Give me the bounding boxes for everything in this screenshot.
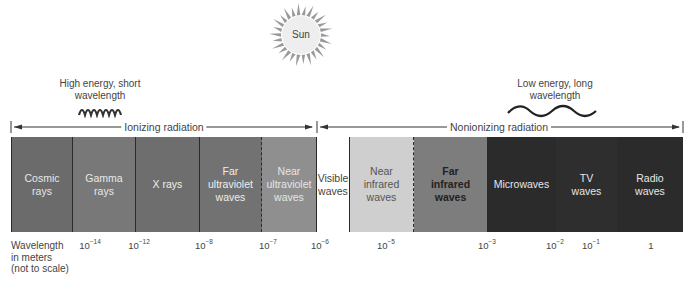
sun-ray [272,43,284,49]
sun-ray [282,50,291,60]
sun-ray [306,53,311,65]
tick-exponent: −1 [593,238,600,245]
band-far-infrared: Farinfraredwaves [414,137,488,232]
wavelength-tick: 10−7 [259,240,277,251]
tick-exponent: −5 [388,238,395,245]
band-label: Radiowaves [635,172,665,198]
long-wave-icon [506,99,600,119]
high-energy-line2: wavelength [40,90,160,102]
band-label-line: ultraviolet [267,178,312,191]
axis-label: Wavelength in meters (not to scale) [11,240,69,275]
sun-ray [279,47,288,53]
band-x-rays: X rays [136,137,200,232]
nonionizing-radiation-label: Nonionizing radiation [447,121,551,133]
band-label-line: Near [364,165,400,178]
band-label-line: infrared [431,178,470,191]
band-far-ultraviolet: Farultravioletwaves [200,137,262,232]
wavelength-tick: 10−5 [377,240,395,251]
band-label-line: Near [267,165,312,178]
band-label-line: waves [431,191,470,204]
tick-exponent: −7 [270,238,277,245]
tick-exponent: −8 [206,238,213,245]
wavelength-tick: 10−8 [195,240,213,251]
sun-ray [320,38,332,44]
band-label-line: Visible [318,172,349,185]
band-label-line: ultraviolet [208,178,253,191]
band-tv-waves: TVwaves [556,137,618,232]
band-label-line: waves [208,191,253,204]
band-gamma-rays: Gammarays [73,137,136,232]
sun-ray [302,6,306,15]
wavelength-tick: 10−1 [582,240,600,251]
tick-base: 10 [546,240,557,251]
sun-ray [296,55,301,67]
axis-label-line2: in meters [11,252,69,264]
wavelength-tick: 1 [648,240,653,251]
wavelength-tick: 10−2 [546,240,564,251]
axis-label-line3: (not to scale) [11,263,69,275]
sun-ray [269,33,281,37]
band-label-line: waves [572,185,602,198]
wavelength-tick: 10−12 [128,240,150,251]
sun-ray [311,12,319,20]
band-label-line: Cosmic [24,172,59,185]
band-label: X rays [153,178,183,191]
sun-ray [320,28,332,31]
high-energy-line1: High energy, short [40,78,160,90]
tick-base: 10 [128,240,139,251]
high-energy-label: High energy, short wavelength [40,78,160,102]
low-energy-line1: Low energy, long [495,78,615,90]
band-label: Cosmicrays [24,172,59,198]
band-label: TVwaves [572,172,602,198]
sun-ray [311,50,317,59]
band-cosmic-rays: Cosmicrays [11,137,73,232]
band-label-line: rays [85,185,122,198]
wavelength-tick: 10−6 [311,240,329,251]
wavelength-tick: 10−3 [478,240,496,251]
band-label-line: X rays [153,178,183,191]
sun-ray [306,6,313,17]
band-label-line: waves [364,191,400,204]
tick-base: 10 [195,240,206,251]
sun-ray [273,38,283,41]
tick-exponent: −12 [139,238,150,245]
sun-ray [290,53,296,62]
band-label-line: TV [572,172,602,185]
band-label-line: Gamma [85,172,122,185]
sun-ray [318,23,327,28]
band-microwaves: Microwaves [488,137,556,232]
band-label: Visiblewaves [318,172,349,198]
sun-ray [321,33,330,37]
tick-base: 10 [582,240,593,251]
sun-ray [297,3,301,15]
band-visible-waves: Visiblewaves [317,137,350,232]
sun-ray [273,27,282,32]
band-near-ultraviolet: Nearultravioletwaves [262,137,317,232]
sun-ray [292,7,296,17]
band-label-line: waves [267,191,312,204]
sun-ray [318,43,326,50]
band-label-line: Microwaves [494,178,549,191]
tick-exponent: −6 [322,238,329,245]
short-wave-icon [77,104,127,118]
tick-base: 10 [259,240,270,251]
axis-label-line1: Wavelength [11,240,69,252]
tick-exponent: −2 [557,238,564,245]
band-label: Gammarays [85,172,122,198]
sun-label: Sun [286,29,316,41]
ionizing-radiation-label: Ionizing radiation [121,121,206,133]
band-label: Microwaves [494,178,549,191]
band-label: Nearultravioletwaves [267,165,312,204]
range-arrows [0,118,694,136]
band-label: Farinfraredwaves [431,165,470,204]
tick-base: 10 [377,240,388,251]
sun-ray [302,55,306,64]
tick-exponent: −3 [489,238,496,245]
tick-base: 10 [478,240,489,251]
wavelength-tick: 10−14 [79,240,101,251]
band-radio-waves: Radiowaves [618,137,683,232]
band-label-line: Far [208,165,253,178]
tick-exponent: −14 [90,238,101,245]
band-label-line: Radio [635,172,665,185]
tick-base: 1 [648,240,653,251]
